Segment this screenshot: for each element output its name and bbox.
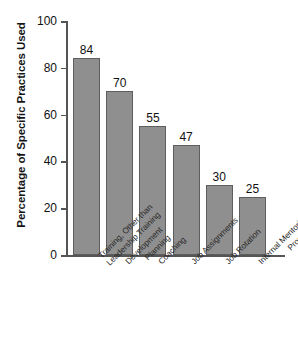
plot-area: 020406080100 847055473025 Training, Othe… (66, 21, 285, 255)
y-tick-label: 40 (44, 154, 57, 168)
bar-chart: Percentage of Specific Practices Used 02… (0, 0, 298, 350)
bar-value-label: 70 (113, 76, 126, 90)
y-tick-label: 0 (50, 248, 57, 262)
y-tick-mark (61, 21, 67, 23)
bar-value-label: 25 (246, 182, 259, 196)
y-tick-mark (61, 208, 67, 210)
y-axis-line (66, 21, 68, 255)
bar-value-label: 47 (179, 130, 192, 144)
y-tick-mark (61, 68, 67, 70)
y-tick-label: 20 (44, 201, 57, 215)
y-axis-title: Percentage of Specific Practices Used (10, 0, 32, 250)
y-tick-mark (61, 115, 67, 117)
bar-value-label: 55 (146, 111, 159, 125)
bar-value-label: 30 (213, 170, 226, 184)
bar[interactable]: 84 (73, 58, 100, 255)
y-tick-label: 100 (37, 14, 57, 28)
y-tick-mark (61, 161, 67, 163)
y-tick-mark (61, 255, 67, 257)
y-tick-label: 60 (44, 108, 57, 122)
bar-value-label: 84 (80, 43, 93, 57)
y-tick-label: 80 (44, 61, 57, 75)
